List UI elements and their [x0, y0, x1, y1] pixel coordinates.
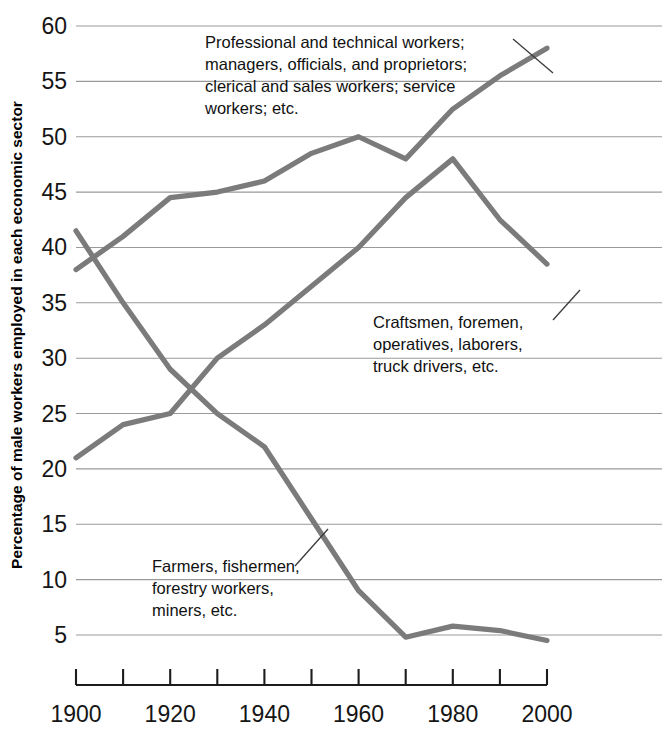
line-chart: 51015202530354045505560 Percentage of ma… [0, 0, 670, 738]
y-axis-title: Percentage of male workers employed in e… [8, 101, 25, 569]
y-tick-label: 25 [41, 401, 67, 427]
x-tick-label: 1960 [333, 701, 384, 727]
y-tick-label: 50 [41, 124, 67, 150]
y-tick-label: 20 [41, 456, 67, 482]
annotation-white-collar-line-1: Professional and technical workers; [205, 33, 465, 51]
annotation-blue-collar-line-2: operatives, laborers, [373, 335, 523, 353]
y-tick-label: 10 [41, 567, 67, 593]
y-tick-label: 5 [54, 622, 67, 648]
x-tick-label: 1900 [50, 701, 101, 727]
annotation-blue-collar-line-3: truck drivers, etc. [373, 357, 499, 375]
annotation-white-collar-line-2: managers, officials, and proprietors; [205, 55, 467, 73]
y-axis-title-text: Percentage of male workers employed in e… [8, 101, 25, 569]
y-tick-label: 55 [41, 68, 67, 94]
annotation-agricultural-line-2: forestry workers, [152, 579, 274, 597]
y-tick-label: 45 [41, 179, 67, 205]
annotation-blue-collar-line-1: Craftsmen, foremen, [373, 313, 523, 331]
y-tick-label: 35 [41, 290, 67, 316]
annotation-agricultural-line-3: miners, etc. [152, 601, 237, 619]
y-tick-label: 30 [41, 345, 67, 371]
y-tick-label: 40 [41, 234, 67, 260]
x-tick-label: 1920 [145, 701, 196, 727]
x-tick-label: 2000 [521, 701, 572, 727]
chart-svg: 51015202530354045505560 Percentage of ma… [0, 0, 670, 738]
y-tick-label: 60 [41, 13, 67, 39]
annotation-white-collar-line-4: workers; etc. [204, 99, 299, 117]
x-tick-label: 1980 [427, 701, 478, 727]
x-tick-label: 1940 [239, 701, 290, 727]
y-tick-label: 15 [41, 511, 67, 537]
chart-background [0, 0, 670, 738]
annotation-white-collar-line-3: clerical and sales workers; service [205, 77, 455, 95]
annotation-agricultural-line-1: Farmers, fishermen, [152, 557, 300, 575]
